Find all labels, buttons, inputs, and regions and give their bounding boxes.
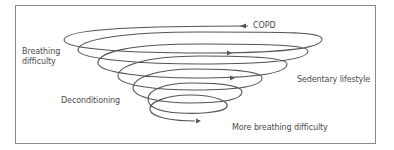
- label-more-breathing-difficulty: More breathing difficulty: [232, 123, 328, 133]
- label-breathing-line1: Breathing: [22, 47, 60, 57]
- label-breathing-difficulty: Breathing difficulty: [22, 47, 60, 67]
- spiral-path: [64, 26, 322, 121]
- label-breathing-line2: difficulty: [22, 57, 60, 67]
- arrowheads: [196, 24, 246, 124]
- arrow-left-icon: [240, 24, 246, 29]
- arrow-right-icon: [196, 119, 201, 124]
- arrow-right-icon: [227, 51, 232, 56]
- label-deconditioning: Deconditioning: [61, 96, 120, 106]
- arrow-right-icon: [230, 76, 235, 81]
- label-sedentary-lifestyle: Sedentary lifestyle: [297, 75, 370, 85]
- label-copd: COPD: [253, 21, 275, 31]
